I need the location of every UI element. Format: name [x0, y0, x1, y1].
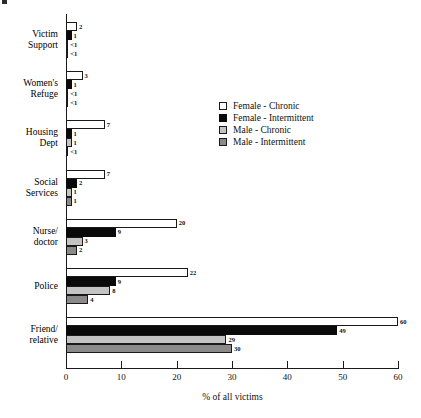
legend-swatch-icon: [219, 102, 227, 110]
x-tick-label: 20: [164, 372, 190, 383]
category-label-line: Women's: [0, 78, 62, 89]
category-label: VictimSupport: [0, 29, 62, 51]
x-tick: [177, 361, 178, 369]
bar: [66, 237, 83, 246]
bar: [66, 147, 68, 156]
bar: [66, 188, 72, 197]
legend-swatch-icon: [219, 114, 227, 122]
category-label: Nurse/doctor: [0, 226, 62, 248]
category-label-line: Nurse/: [0, 226, 62, 237]
category-label-line: Housing: [0, 127, 62, 138]
bar-value-label: <1: [70, 41, 77, 49]
bar: [66, 22, 77, 31]
bar: [66, 98, 68, 107]
bar-value-label: 7: [107, 170, 110, 178]
bar-value-label: <1: [70, 90, 77, 98]
legend-label: Female - Chronic: [233, 100, 299, 112]
bar-value-label: 20: [179, 219, 186, 227]
bar-value-label: <1: [70, 50, 77, 58]
bar-value-label: 22: [190, 269, 197, 277]
bar-value-label: 8: [112, 287, 115, 295]
legend-item: Female - Intermittent: [219, 112, 339, 124]
bar-value-label: 2: [79, 23, 82, 31]
category-label-line: Refuge: [0, 89, 62, 100]
category-label-line: Friend/: [0, 324, 62, 335]
bar: [66, 31, 72, 40]
x-tick: [398, 361, 399, 369]
bar-value-label: <1: [70, 148, 77, 156]
bar-value-label: 60: [400, 318, 407, 326]
bar-value-label: 30: [234, 345, 241, 353]
x-tick-label: 40: [274, 372, 300, 383]
category-label-line: relative: [0, 335, 62, 346]
category-label-line: Victim: [0, 29, 62, 40]
bar-value-label: 1: [74, 139, 77, 147]
legend-item: Male - Chronic: [219, 124, 339, 136]
bar: [66, 326, 337, 335]
x-tick-label: 0: [53, 372, 79, 383]
bar: [66, 246, 77, 255]
bar-value-label: 1: [74, 197, 77, 205]
bar-chart: 0102030405060 % of all victims VictimSup…: [0, 0, 421, 418]
x-tick-label: 50: [330, 372, 356, 383]
bar: [66, 268, 188, 277]
category-label-line: Services: [0, 188, 62, 199]
bar-value-label: 4: [90, 296, 93, 304]
x-axis-title: % of all victims: [66, 392, 399, 402]
category-label: SocialServices: [0, 177, 62, 199]
category-label: Friend/relative: [0, 324, 62, 346]
bar-value-label: 9: [118, 278, 121, 286]
bar-value-label: 49: [339, 327, 346, 335]
category-label-line: Social: [0, 177, 62, 188]
bar-value-label: 3: [85, 72, 88, 80]
bar: [66, 129, 72, 138]
category-label-line: Support: [0, 40, 62, 51]
bar: [66, 80, 72, 89]
bar-value-label: 2: [79, 246, 82, 254]
x-tick-label: 30: [219, 372, 245, 383]
bar: [66, 344, 232, 353]
legend-swatch-icon: [219, 126, 227, 134]
bar: [66, 89, 68, 98]
bar: [66, 197, 72, 206]
bar: [66, 138, 72, 147]
corner-artifact: [2, 0, 7, 4]
bar: [66, 71, 83, 80]
chart-legend: Female - ChronicFemale - IntermittentMal…: [219, 100, 339, 148]
bar-value-label: 3: [85, 237, 88, 245]
bar: [66, 277, 116, 286]
legend-swatch-icon: [219, 138, 227, 146]
bar-value-label: 29: [228, 336, 235, 344]
bar: [66, 286, 110, 295]
bar-value-label: 1: [74, 130, 77, 138]
bar: [66, 335, 226, 344]
legend-label: Male - Chronic: [233, 124, 291, 136]
legend-label: Female - Intermittent: [233, 112, 314, 124]
bar-value-label: 9: [118, 228, 121, 236]
bar-value-label: <1: [70, 99, 77, 107]
bar: [66, 40, 68, 49]
bar: [66, 219, 177, 228]
category-label: Women'sRefuge: [0, 78, 62, 100]
category-label: HousingDept: [0, 127, 62, 149]
legend-label: Male - Intermittent: [233, 136, 305, 148]
bar-value-label: 7: [107, 121, 110, 129]
category-label: Police: [0, 281, 62, 292]
bar-value-label: 1: [74, 81, 77, 89]
legend-item: Male - Intermittent: [219, 136, 339, 148]
bar: [66, 228, 116, 237]
bar: [66, 295, 88, 304]
legend-item: Female - Chronic: [219, 100, 339, 112]
bar-value-label: 1: [74, 188, 77, 196]
bar: [66, 170, 105, 179]
x-tick-label: 10: [108, 372, 134, 383]
bar: [66, 179, 77, 188]
x-tick: [232, 361, 233, 369]
x-tick-label: 60: [385, 372, 411, 383]
category-label-line: doctor: [0, 237, 62, 248]
bar-value-label: 2: [79, 179, 82, 187]
bar: [66, 317, 398, 326]
bar-value-label: 1: [74, 32, 77, 40]
category-label-line: Dept: [0, 138, 62, 149]
x-tick: [121, 361, 122, 369]
